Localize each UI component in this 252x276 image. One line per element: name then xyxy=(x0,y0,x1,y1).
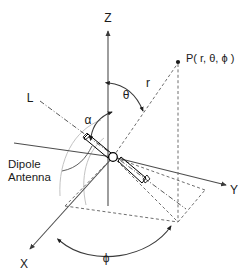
radius-label: r xyxy=(146,76,150,90)
projection-ray-to-foot xyxy=(113,157,178,222)
x-axis-label: X xyxy=(20,257,28,271)
phi-angle-label: ϕ xyxy=(103,251,110,265)
projection-edge-y-side xyxy=(178,190,205,222)
dipole-annotation-line-1: Dipole xyxy=(8,158,41,170)
theta-angle-label: θ xyxy=(123,88,130,102)
diagram-canvas: Z Y X r P( r, θ, ϕ ) ϕ θ L xyxy=(0,0,252,276)
dipole-rod-lower xyxy=(118,157,146,183)
y-axis-line xyxy=(113,157,226,185)
phi-angle-arc xyxy=(60,226,171,257)
dipole-feed-point xyxy=(109,153,118,162)
projection-edge-x-side xyxy=(65,206,178,222)
point-p-marker xyxy=(176,60,180,64)
antenna-coordinate-diagram: Z Y X r P( r, θ, ϕ ) ϕ θ L xyxy=(0,0,252,276)
alpha-angle-label: α xyxy=(85,113,92,127)
dipole-axis-label-l: L xyxy=(27,91,34,105)
dipole-rod-upper-taper xyxy=(83,133,90,140)
dipole-annotation-line-2: Antenna xyxy=(8,171,51,183)
alpha-angle-arc xyxy=(91,112,112,137)
z-axis-label: Z xyxy=(104,11,111,25)
point-p-label: P( r, θ, ϕ ) xyxy=(186,52,234,64)
ghost-arc-inner xyxy=(84,138,104,205)
dipole-annotation-leader xyxy=(62,146,92,171)
y-axis-label: Y xyxy=(230,183,238,197)
